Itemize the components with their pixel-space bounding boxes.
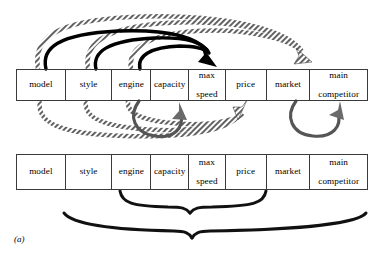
attribute-row-top: model style engine capacity max speed pr…	[16, 69, 368, 101]
cell-model-bottom[interactable]: model	[17, 155, 66, 189]
gray-arrowhead-capacity	[172, 102, 187, 120]
cell-max-speed-top[interactable]: max speed	[189, 70, 226, 100]
cell-price-top[interactable]: price	[226, 70, 267, 100]
figure-caption: (a)	[14, 234, 25, 244]
cell-engine-top[interactable]: engine	[112, 70, 151, 100]
cell-main-competitor-top[interactable]: main competitor	[310, 70, 367, 100]
dependency-arrow-layer	[0, 0, 382, 259]
cell-capacity-bottom[interactable]: capacity	[151, 155, 189, 189]
cell-main-competitor-bottom[interactable]: main competitor	[310, 155, 367, 189]
figure-canvas: model style engine capacity max speed pr…	[0, 0, 382, 259]
cell-capacity-top[interactable]: capacity	[151, 70, 189, 100]
attribute-row-bottom: model style engine capacity max speed pr…	[16, 154, 368, 190]
hatched-arrowhead-market	[294, 48, 312, 64]
gray-arc-market-to-main-competitor	[291, 101, 339, 136]
cell-model-top[interactable]: model	[17, 70, 66, 100]
hatched-arcs-to-market	[37, 16, 302, 69]
solid-arcs-to-max-speed	[45, 31, 209, 69]
cell-market-top[interactable]: market	[267, 70, 311, 100]
cell-engine-bottom[interactable]: engine	[112, 155, 151, 189]
brace-outer	[64, 213, 366, 238]
cell-style-bottom[interactable]: style	[66, 155, 113, 189]
brace-inner	[120, 191, 266, 213]
cell-style-top[interactable]: style	[66, 70, 113, 100]
cell-price-bottom[interactable]: price	[226, 155, 267, 189]
cell-market-bottom[interactable]: market	[267, 155, 311, 189]
gray-arrowhead-main-competitor	[329, 101, 344, 120]
cell-max-speed-bottom[interactable]: max speed	[189, 155, 226, 189]
